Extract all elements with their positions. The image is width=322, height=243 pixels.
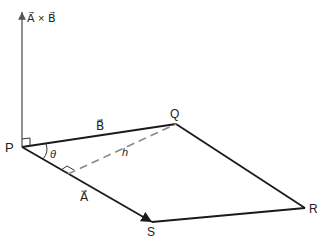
angle-label: θ <box>50 148 56 160</box>
vector-a-edge-ps <box>22 147 152 222</box>
parallelogram-diagram: A⃗ × B⃗ P Q R S B⃗ A⃗ θ h <box>0 0 322 243</box>
point-label-s: S <box>147 225 155 239</box>
vector-label-a: A⃗ <box>80 189 89 204</box>
edge-qr <box>176 124 305 208</box>
right-angle-marker-p <box>22 138 30 146</box>
vector-label-b: B⃗ <box>96 118 104 133</box>
point-label-r: R <box>309 202 318 216</box>
point-label-p: P <box>5 140 14 155</box>
height-label: h <box>122 146 128 158</box>
angle-theta-arc <box>43 144 47 159</box>
point-label-q: Q <box>170 107 179 121</box>
edge-rs <box>152 208 305 222</box>
axis-label: A⃗ × B⃗ <box>27 11 56 24</box>
right-angle-marker-h <box>61 166 74 170</box>
